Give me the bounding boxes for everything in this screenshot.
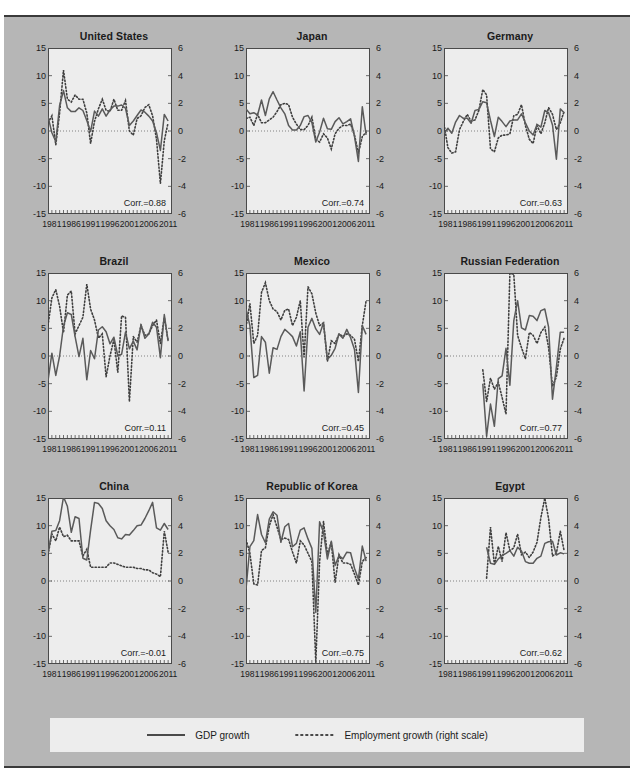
y-axis-left-labels: 151050-5-10-15 bbox=[216, 498, 244, 664]
panel-title: United States bbox=[16, 30, 212, 42]
y-axis-left-tick: -15 bbox=[33, 209, 46, 219]
y-axis-left-tick: -15 bbox=[429, 659, 442, 669]
x-axis-tick-label: 1996 bbox=[496, 444, 515, 454]
y-axis-left-tick: -10 bbox=[429, 406, 442, 416]
y-axis-left-labels: 151050-5-10-15 bbox=[414, 498, 442, 664]
y-axis-right-tick: -4 bbox=[178, 181, 186, 191]
y-axis-left-tick: -10 bbox=[33, 631, 46, 641]
y-axis-right-tick: -6 bbox=[574, 209, 582, 219]
x-axis-tick-label: 1981 bbox=[438, 669, 457, 679]
x-axis-tick-label: 1986 bbox=[62, 444, 81, 454]
x-axis-labels: 1981198619911996200120062011 bbox=[246, 669, 370, 683]
x-axis-tick-label: 1996 bbox=[298, 669, 317, 679]
y-axis-left-tick: -5 bbox=[434, 379, 442, 389]
y-axis-right-tick: -2 bbox=[574, 154, 582, 164]
x-axis-tick-label: 1996 bbox=[496, 219, 515, 229]
y-axis-left-tick: -5 bbox=[236, 379, 244, 389]
x-axis-tick-label: 2001 bbox=[318, 219, 337, 229]
x-axis-tick-label: 1991 bbox=[477, 669, 496, 679]
legend-label-employment-growth: Employment growth (right scale) bbox=[344, 730, 487, 741]
y-axis-right-tick: -2 bbox=[376, 604, 384, 614]
y-axis-left-tick: -15 bbox=[429, 209, 442, 219]
x-axis-labels: 1981198619911996200120062011 bbox=[444, 219, 568, 233]
x-axis-tick-label: 2001 bbox=[516, 444, 535, 454]
x-axis-tick-label: 1996 bbox=[100, 669, 119, 679]
y-axis-left-tick: 5 bbox=[239, 98, 244, 108]
employment-growth-line bbox=[246, 515, 366, 663]
y-axis-left-tick: 5 bbox=[437, 548, 442, 558]
chart-panel-brazil: Brazil151050-5-10-156420-2-4-6Corr.=0.11… bbox=[16, 255, 212, 477]
x-axis-tick-label: 2001 bbox=[318, 669, 337, 679]
y-axis-right-tick: -4 bbox=[178, 406, 186, 416]
x-axis-tick-label: 1991 bbox=[279, 219, 298, 229]
x-axis-tick-label: 1986 bbox=[458, 444, 477, 454]
y-axis-right-tick: -6 bbox=[574, 659, 582, 669]
y-axis-right-tick: -6 bbox=[178, 659, 186, 669]
y-axis-left-tick: 0 bbox=[239, 351, 244, 361]
y-axis-left-tick: -5 bbox=[236, 154, 244, 164]
y-axis-left-tick: 10 bbox=[234, 296, 244, 306]
y-axis-left-tick: 15 bbox=[234, 493, 244, 503]
panel-title: Republic of Korea bbox=[214, 480, 410, 492]
y-axis-right-tick: 6 bbox=[178, 493, 183, 503]
y-axis-left-tick: -5 bbox=[236, 604, 244, 614]
x-axis-tick-label: 1986 bbox=[260, 444, 279, 454]
y-axis-right-tick: -6 bbox=[376, 659, 384, 669]
y-axis-left-tick: -15 bbox=[231, 434, 244, 444]
y-axis-left-tick: 15 bbox=[36, 493, 46, 503]
y-axis-right-tick: 6 bbox=[574, 43, 579, 53]
x-axis-tick-label: 2006 bbox=[535, 444, 554, 454]
y-axis-right-labels: 6420-2-4-6 bbox=[372, 498, 402, 664]
correlation-annotation: Corr.=0.11 bbox=[124, 423, 166, 433]
x-axis-tick-label: 2001 bbox=[120, 219, 139, 229]
plot-svg bbox=[48, 48, 172, 214]
plot-area: Corr.=0.77 bbox=[444, 273, 568, 439]
y-axis-right-labels: 6420-2-4-6 bbox=[372, 48, 402, 214]
legend-item-gdp-growth: GDP growth bbox=[146, 730, 249, 741]
y-axis-right-tick: -6 bbox=[178, 434, 186, 444]
employment-growth-line bbox=[487, 498, 564, 578]
y-axis-right-tick: 4 bbox=[376, 71, 381, 81]
y-axis-right-tick: 2 bbox=[376, 98, 381, 108]
x-axis-tick-label: 1981 bbox=[240, 669, 259, 679]
y-axis-right-tick: 6 bbox=[574, 493, 579, 503]
y-axis-left-tick: 0 bbox=[437, 126, 442, 136]
y-axis-right-tick: 6 bbox=[178, 43, 183, 53]
plot-svg bbox=[444, 48, 568, 214]
y-axis-right-tick: -2 bbox=[376, 379, 384, 389]
y-axis-left-tick: -15 bbox=[33, 434, 46, 444]
y-axis-left-tick: -15 bbox=[429, 434, 442, 444]
gdp-growth-line bbox=[483, 301, 564, 437]
y-axis-right-tick: 2 bbox=[376, 548, 381, 558]
x-axis-tick-label: 1986 bbox=[458, 669, 477, 679]
y-axis-left-tick: 5 bbox=[239, 548, 244, 558]
chart-panel-egypt: Egypt151050-5-10-156420-2-4-6Corr.=0.621… bbox=[412, 480, 608, 702]
dotted-line-icon bbox=[295, 730, 335, 740]
y-axis-left-tick: -5 bbox=[38, 154, 46, 164]
correlation-annotation: Corr.=0.75 bbox=[322, 648, 364, 658]
gdp-growth-line bbox=[48, 498, 168, 560]
y-axis-left-tick: 15 bbox=[234, 43, 244, 53]
y-axis-right-tick: -2 bbox=[574, 379, 582, 389]
legend-items: GDP growth Employment growth (right scal… bbox=[50, 718, 584, 752]
y-axis-left-tick: 0 bbox=[437, 351, 442, 361]
y-axis-left-tick: 10 bbox=[36, 296, 46, 306]
y-axis-left-tick: 10 bbox=[234, 71, 244, 81]
y-axis-left-tick: 10 bbox=[36, 521, 46, 531]
y-axis-left-labels: 151050-5-10-15 bbox=[216, 48, 244, 214]
x-axis-tick-label: 2011 bbox=[555, 219, 573, 229]
y-axis-right-tick: 2 bbox=[574, 548, 579, 558]
y-axis-right-labels: 6420-2-4-6 bbox=[570, 498, 600, 664]
y-axis-right-tick: -2 bbox=[178, 604, 186, 614]
solid-line-icon bbox=[146, 730, 186, 740]
y-axis-left-tick: -15 bbox=[231, 209, 244, 219]
y-axis-left-tick: -10 bbox=[231, 181, 244, 191]
y-axis-left-tick: 10 bbox=[432, 296, 442, 306]
x-axis-tick-label: 1986 bbox=[260, 219, 279, 229]
x-axis-tick-label: 1981 bbox=[42, 444, 61, 454]
x-axis-tick-label: 2001 bbox=[120, 669, 139, 679]
y-axis-left-tick: 5 bbox=[41, 323, 46, 333]
y-axis-left-tick: 0 bbox=[41, 126, 46, 136]
x-axis-tick-label: 1981 bbox=[438, 444, 457, 454]
x-axis-tick-label: 2006 bbox=[139, 219, 158, 229]
